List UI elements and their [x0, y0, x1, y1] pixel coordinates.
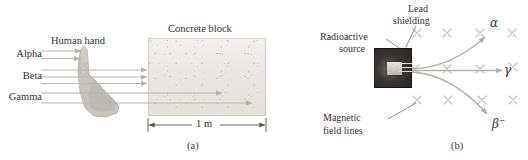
leader-lead-shielding: [406, 26, 416, 47]
beta-track: [412, 72, 487, 114]
beta-ray-label: Beta: [2, 71, 42, 82]
lead-shielding-label-line2: shielding: [393, 16, 430, 26]
radiation-penetration-figure: Alpha Beta Gamma Human hand Concrete blo…: [0, 0, 528, 160]
gamma-beams: [41, 93, 252, 103]
radioactive-source-label-line2: source: [339, 44, 365, 54]
alpha-beams: [41, 51, 81, 59]
lead-shielding-label-line1: Lead: [408, 4, 428, 14]
magnetic-field-label-line2: field lines: [323, 126, 363, 136]
alpha-ray-label: Alpha: [2, 49, 42, 60]
dimension-label-1m: 1 m: [196, 119, 212, 130]
beta-symbol-glyph: β: [492, 117, 499, 131]
panel-a-caption: (a): [187, 141, 199, 152]
gamma-ray-label: Gamma: [0, 92, 42, 103]
human-hand-label: Human hand: [51, 36, 105, 47]
gamma-ray-symbol: γ: [504, 64, 511, 76]
field-mark-row-1: [413, 29, 516, 37]
leader-magnetic-field: [388, 103, 416, 119]
human-hand-illustration: [78, 46, 119, 117]
field-mark-row-3: [413, 96, 517, 104]
alpha-particle-symbol: α: [490, 17, 498, 29]
concrete-block-label: Concrete block: [168, 24, 232, 35]
panel-b-magnetic-deflection: Radioactive source Lead shielding Magnet…: [266, 0, 528, 160]
panel-b-caption: (b): [451, 141, 463, 152]
radioactive-source-label-line1: Radioactive: [320, 32, 368, 42]
alpha-track: [412, 37, 485, 69]
beta-charge-sign: −: [499, 116, 505, 125]
beta-particle-symbol: β−: [492, 117, 505, 130]
panel-a-penetration: Alpha Beta Gamma Human hand Concrete blo…: [0, 0, 266, 160]
source-collimator-slits: [399, 63, 412, 74]
radioactive-source-photo: [374, 48, 412, 88]
magnetic-field-label-line1: Magnetic: [323, 113, 361, 123]
